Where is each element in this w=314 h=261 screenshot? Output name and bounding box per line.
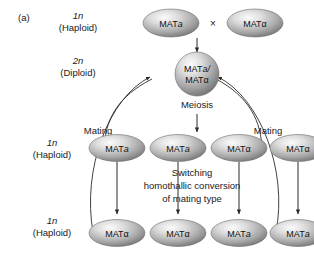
spore-4-prefix: MAT	[286, 144, 305, 154]
stage-diploid-name: (Diploid)	[60, 67, 95, 78]
meiotic-product-4: MATα	[270, 135, 314, 162]
meiotic-product-3: MATα	[211, 135, 267, 162]
stage-top-name: (Haploid)	[59, 22, 98, 33]
spore-3-allele: α	[246, 144, 251, 154]
diploid-line2-prefix: MAT	[185, 75, 204, 85]
meiosis-label: Meiosis	[181, 99, 213, 110]
stage-top-ploidy: 1n	[73, 10, 84, 21]
switched-1-allele: α	[124, 229, 129, 239]
svg-text:MATa: MATa	[105, 144, 128, 154]
switched-2-prefix: MAT	[166, 229, 185, 239]
switched-cell-3: MATa	[211, 220, 267, 247]
svg-text:2n: 2n	[72, 55, 84, 66]
switched-4-allele: a	[305, 229, 310, 239]
stage-bottom-name: (Haploid)	[33, 227, 72, 238]
svg-text:MATα: MATα	[243, 19, 267, 29]
stage-bottom-ploidy: 1n	[47, 215, 58, 226]
stage-label-bottom-haploid: 1n (Haploid)	[33, 215, 72, 238]
stage-label-diploid: 2n (Diploid)	[60, 55, 95, 78]
diploid-cell: MATa/ MATα	[175, 52, 219, 96]
parent-mat-alpha-prefix: MAT	[243, 19, 262, 29]
stage-middle-ploidy: 1n	[47, 137, 58, 148]
cross-symbol: ×	[210, 18, 216, 29]
parent-cell-mat-alpha: MATα	[227, 9, 283, 37]
stage-label-top-haploid: 1n (Haploid)	[59, 10, 98, 33]
svg-text:MATα: MATα	[185, 75, 209, 85]
svg-text:1n: 1n	[47, 215, 58, 226]
spore-1-allele: a	[124, 144, 129, 154]
switched-3-allele: a	[246, 229, 251, 239]
spore-4-allele: α	[305, 144, 310, 154]
svg-text:1n: 1n	[47, 137, 58, 148]
diploid-line1-prefix: MAT	[184, 64, 203, 74]
spore-1-prefix: MAT	[105, 144, 124, 154]
yeast-life-cycle-figure: (a) 1n (Haploid) 2n (Diploid) 1n (Haploi…	[0, 0, 314, 261]
meiotic-product-1: MATa	[89, 135, 145, 162]
switched-cell-2: MATα	[150, 220, 206, 247]
stage-diploid-ploidy: 2n	[72, 55, 84, 66]
spore-2-allele: a	[185, 144, 190, 154]
svg-text:MATa: MATa	[166, 144, 189, 154]
svg-text:MATα: MATα	[166, 229, 190, 239]
svg-text:MATa/: MATa/	[184, 64, 211, 74]
parent-mat-a-prefix: MAT	[159, 19, 178, 29]
mating-label-left: Mating	[84, 125, 113, 136]
diploid-line2-allele: α	[204, 75, 209, 85]
stage-label-middle-haploid: 1n (Haploid)	[33, 137, 72, 160]
svg-text:MATα: MATα	[105, 229, 129, 239]
switched-4-prefix: MAT	[286, 229, 305, 239]
spore-2-prefix: MAT	[166, 144, 185, 154]
svg-text:MATα: MATα	[227, 144, 251, 154]
switched-3-prefix: MAT	[227, 229, 246, 239]
switching-label-line2: homothallic conversion	[144, 180, 241, 191]
switched-1-prefix: MAT	[105, 229, 124, 239]
svg-text:1n: 1n	[73, 10, 84, 21]
parent-cell-mat-a: MATa	[143, 9, 199, 37]
panel-label: (a)	[18, 12, 30, 23]
svg-text:MATα: MATα	[286, 144, 310, 154]
svg-text:MATa: MATa	[286, 229, 309, 239]
spore-3-prefix: MAT	[227, 144, 246, 154]
meiotic-product-2: MATa	[150, 135, 206, 162]
switching-label-line3: of mating type	[162, 193, 222, 204]
switched-cell-4: MATa	[270, 220, 314, 247]
parent-mat-a-allele: a	[178, 19, 183, 29]
mating-label-right: Mating	[254, 125, 283, 136]
svg-text:MATa: MATa	[227, 229, 250, 239]
switched-cell-1: MATα	[89, 220, 145, 247]
svg-text:MATa: MATa	[159, 19, 182, 29]
stage-middle-name: (Haploid)	[33, 149, 72, 160]
switched-2-allele: α	[185, 229, 190, 239]
parent-mat-alpha-allele: α	[262, 19, 267, 29]
